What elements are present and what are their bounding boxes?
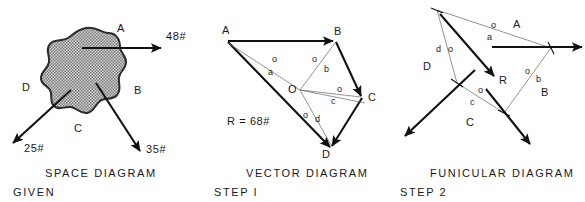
- ray-label-od-pole: o: [303, 110, 308, 120]
- string-label-oc-ray: c: [470, 97, 475, 107]
- force-label-48: 48#: [166, 30, 186, 42]
- space-label-d: D: [22, 81, 30, 93]
- space-diagram-caption: SPACE DIAGRAM: [45, 167, 157, 179]
- force-label-25: 25#: [24, 142, 44, 154]
- string-label-oa-ray: a: [487, 32, 492, 42]
- ray-label-ob-ray: b: [324, 64, 329, 74]
- string-label-od-ray: d: [436, 44, 441, 54]
- string-label-od-pole: o: [448, 44, 453, 54]
- ray-label-oc-pole: o: [337, 84, 342, 94]
- vector-vertex-a: A: [222, 24, 230, 36]
- space-label-c: C: [74, 122, 82, 134]
- vector-pole-o: O: [288, 83, 297, 95]
- force-arrow-d: [13, 90, 71, 143]
- ray-label-ob-pole: o: [312, 54, 317, 64]
- graphic-statics-figure: A B C D 48# 35# 25# SPACE DIAGRAM GIVEN …: [0, 0, 585, 202]
- space-label-a: A: [117, 22, 125, 34]
- vector-diagram-subcaption: STEP I: [214, 186, 258, 198]
- funicular-label-d: D: [423, 60, 431, 72]
- ray-ob: [300, 43, 335, 90]
- funicular-diagram-caption: FUNICULAR DIAGRAM: [430, 167, 575, 179]
- ray-label-oc-ray: c: [331, 96, 336, 106]
- rigid-body-blob: [41, 28, 126, 113]
- funicular-diagram-subcaption: STEP 2: [400, 186, 447, 198]
- vector-cd: [332, 98, 362, 146]
- string-label-ob-pole: o: [525, 66, 530, 76]
- ray-label-oa-ray: a: [268, 67, 273, 77]
- funicular-label-c: C: [466, 116, 474, 128]
- funicular-label-b: B: [541, 86, 549, 98]
- vector-diagram-caption: VECTOR DIAGRAM: [246, 167, 368, 179]
- vector-diagram-panel: A B C D O o a o b o c o d R = 68# VECTOR…: [214, 24, 376, 198]
- funicular-force-b: [486, 89, 530, 144]
- ray-label-od-ray: d: [315, 114, 320, 124]
- vector-vertex-c: C: [368, 91, 376, 103]
- vector-vertex-d: D: [322, 148, 330, 160]
- vector-vertex-b: B: [334, 25, 342, 37]
- funicular-label-a: A: [513, 18, 521, 30]
- funicular-resultant-label: R: [499, 74, 508, 86]
- string-ob: [504, 48, 551, 113]
- space-label-b: B: [134, 84, 142, 96]
- space-diagram-panel: A B C D 48# 35# 25# SPACE DIAGRAM GIVEN: [13, 22, 186, 198]
- tick-mark-top: [431, 8, 443, 13]
- space-diagram-subcaption: GIVEN: [13, 186, 55, 198]
- ray-label-oa-pole: o: [272, 54, 277, 64]
- funicular-diagram-panel: A B C D R o a o b o c o d FUNICULAR DIAG…: [400, 8, 582, 198]
- funicular-force-d: [405, 70, 475, 136]
- resultant-label: R = 68#: [227, 115, 270, 127]
- force-label-35: 35#: [146, 143, 166, 155]
- string-label-oc-pole: o: [478, 85, 483, 95]
- string-label-ob-ray: b: [536, 74, 541, 84]
- string-label-oa-pole: o: [491, 20, 496, 30]
